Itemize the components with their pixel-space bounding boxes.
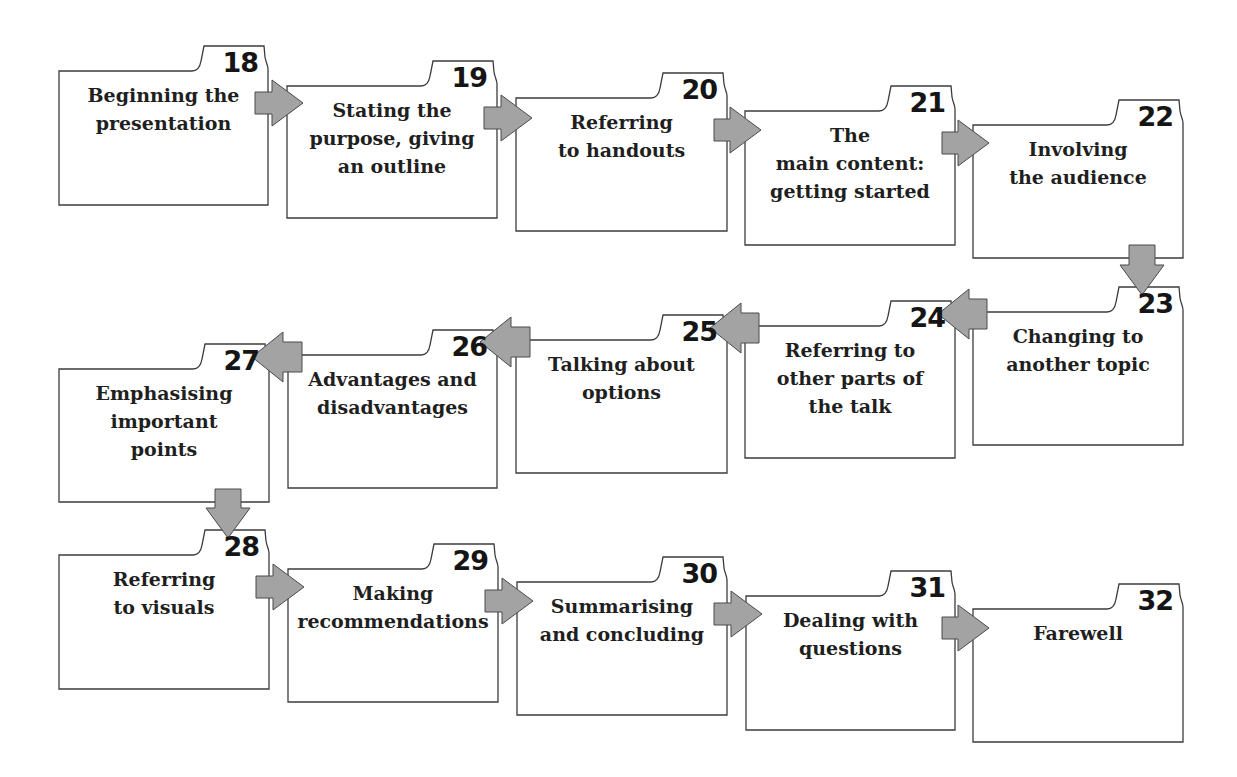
step-number: 23 [1103, 290, 1173, 317]
step-label: Referring to handouts [516, 108, 727, 164]
step-label: Referring to visuals [59, 565, 269, 621]
step-number: 28 [189, 533, 259, 560]
step-number: 29 [418, 547, 488, 574]
step-label: Changing to another topic [973, 322, 1183, 378]
step-label: Involving the audience [973, 135, 1183, 191]
step-number: 26 [417, 333, 487, 360]
step-number: 21 [875, 89, 945, 116]
step-number: 25 [647, 318, 717, 345]
step-number: 24 [875, 304, 945, 331]
step-number: 19 [417, 64, 487, 91]
step-label: Beginning the presentation [59, 81, 268, 137]
step-number: 22 [1103, 103, 1173, 130]
step-number: 31 [875, 574, 945, 601]
step-number: 27 [189, 347, 259, 374]
step-number: 32 [1103, 587, 1173, 614]
step-number: 30 [647, 560, 717, 587]
step-label: Talking about options [516, 350, 727, 406]
step-label: Farewell [973, 619, 1183, 647]
step-number: 20 [647, 76, 717, 103]
step-label: Summarising and concluding [517, 592, 727, 648]
step-label: Referring to other parts of the talk [745, 336, 955, 420]
step-label: Emphasising important points [59, 379, 269, 463]
flow-diagram: 18Beginning the presentation 19Stating t… [0, 0, 1237, 777]
step-label: Dealing with questions [746, 606, 955, 662]
step-number: 18 [188, 49, 258, 76]
step-label: The main content: getting started [745, 121, 955, 205]
step-label: Making recommendations [288, 579, 498, 635]
step-label: Advantages and disadvantages [288, 365, 497, 421]
step-label: Stating the purpose, giving an outline [287, 96, 497, 180]
